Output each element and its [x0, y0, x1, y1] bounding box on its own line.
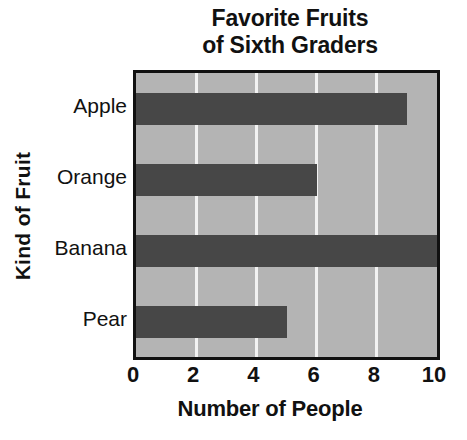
y-axis-tick-labels: Apple Orange Banana Pear — [5, 70, 127, 360]
x-tick-label-6: 6 — [292, 364, 336, 386]
bar-apple — [136, 93, 407, 125]
plot-area — [133, 70, 440, 360]
bar-pear — [136, 306, 287, 338]
x-tick-label-8: 8 — [352, 364, 396, 386]
chart-title-line-1: Favorite Fruits — [120, 5, 460, 32]
y-tick-label-orange: Orange — [7, 166, 127, 187]
x-tick-label-0: 0 — [111, 364, 155, 386]
bar-orange — [136, 164, 317, 196]
x-axis-tick-labels: 0 2 4 6 8 10 — [133, 364, 440, 394]
y-tick-label-pear: Pear — [7, 308, 127, 329]
x-tick-label-2: 2 — [171, 364, 215, 386]
y-tick-label-banana: Banana — [7, 237, 127, 258]
x-axis-title: Number of People — [100, 396, 440, 422]
plot-inner — [136, 73, 437, 357]
bar-banana — [136, 235, 437, 267]
y-tick-label-apple: Apple — [7, 95, 127, 116]
chart-title-line-2: of Sixth Graders — [120, 32, 460, 59]
x-tick-label-10: 10 — [412, 364, 456, 386]
chart-title: Favorite Fruits of Sixth Graders — [120, 5, 460, 59]
x-tick-label-4: 4 — [231, 364, 275, 386]
bar-chart-figure: Favorite Fruits of Sixth Graders Kind of… — [0, 0, 467, 440]
